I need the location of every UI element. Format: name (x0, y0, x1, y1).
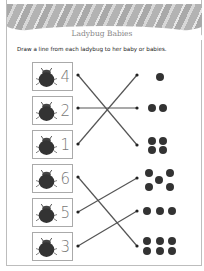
line-6-to-6 (78, 177, 137, 246)
baby-ladybug-groups (143, 73, 176, 255)
line-5-to-5 (78, 178, 137, 212)
line-3-to-3 (78, 211, 137, 246)
connection-lines (0, 0, 204, 271)
